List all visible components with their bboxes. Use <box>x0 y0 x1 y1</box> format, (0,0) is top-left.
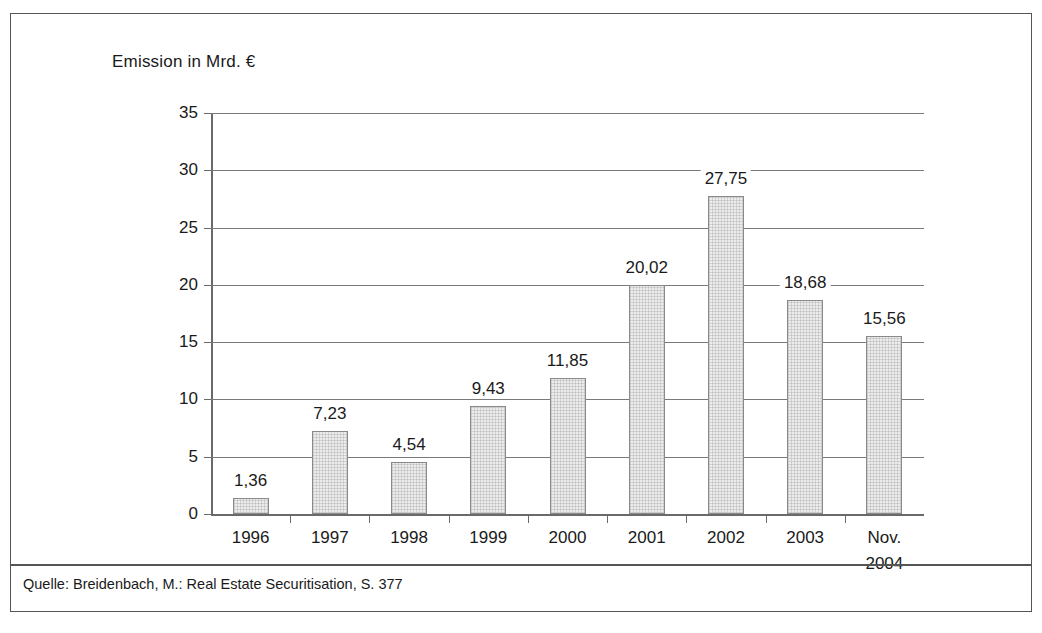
bar-2001[interactable] <box>629 285 665 514</box>
gridline-35: 35 <box>211 113 924 114</box>
bar-Nov.-2004[interactable] <box>866 336 902 514</box>
y-axis-label: 15 <box>179 332 198 352</box>
bar-1997[interactable] <box>312 431 348 514</box>
y-axis-label: 35 <box>179 103 198 123</box>
bar-1998[interactable] <box>391 462 427 514</box>
y-axis-label: 30 <box>179 160 198 180</box>
y-tick-10 <box>204 399 211 400</box>
bar-value-label: 9,43 <box>468 379 509 399</box>
y-axis-label: 25 <box>179 218 198 238</box>
y-axis-label: 20 <box>179 275 198 295</box>
bar-1996[interactable] <box>233 498 269 514</box>
x-axis-label: 2003 <box>786 525 824 551</box>
x-axis-label: 2001 <box>628 525 666 551</box>
y-tick-15 <box>204 342 211 343</box>
bar-value-label: 1,36 <box>230 471 271 491</box>
y-tick-25 <box>204 228 211 229</box>
y-axis-label: 5 <box>189 447 198 467</box>
y-axis-label: 10 <box>179 389 198 409</box>
bar-value-label: 18,68 <box>780 273 831 293</box>
x-axis-label: 2002 <box>707 525 745 551</box>
y-tick-20 <box>204 285 211 286</box>
bar-2002[interactable] <box>708 196 744 514</box>
x-axis-label: 2000 <box>549 525 587 551</box>
x-axis-label: 1998 <box>390 525 428 551</box>
y-axis-label: 0 <box>189 504 198 524</box>
x-tick <box>845 514 846 523</box>
bar-value-label: 27,75 <box>701 169 752 189</box>
gridline-0: 0 <box>211 514 924 516</box>
x-tick <box>607 514 608 523</box>
x-axis-label: 1997 <box>311 525 349 551</box>
source-divider <box>11 564 1031 566</box>
x-axis-label: 1999 <box>469 525 507 551</box>
figure-frame: Emission in Mrd. € 051015202530351,36199… <box>10 13 1032 612</box>
bar-value-label: 15,56 <box>859 309 910 329</box>
bar-2003[interactable] <box>787 300 823 514</box>
plot-area: 051015202530351,3619967,2319974,5419989,… <box>211 113 924 514</box>
x-tick <box>449 514 450 523</box>
bar-value-label: 7,23 <box>309 404 350 424</box>
x-tick <box>290 514 291 523</box>
x-tick <box>369 514 370 523</box>
source-note: Quelle: Breidenbach, M.: Real Estate Sec… <box>23 576 403 592</box>
x-axis-label: Nov. 2004 <box>865 525 903 577</box>
bar-1999[interactable] <box>470 406 506 514</box>
x-tick <box>686 514 687 523</box>
gridline-30: 30 <box>211 170 924 171</box>
y-tick-0 <box>204 514 211 515</box>
y-tick-5 <box>204 457 211 458</box>
y-tick-35 <box>204 113 211 114</box>
bar-value-label: 11,85 <box>543 351 592 371</box>
x-tick <box>528 514 529 523</box>
bar-value-label: 4,54 <box>389 435 430 455</box>
bar-2000[interactable] <box>550 378 586 514</box>
x-tick <box>766 514 767 523</box>
x-axis-label: 1996 <box>232 525 270 551</box>
chart-axis-title: Emission in Mrd. € <box>112 52 255 72</box>
bar-value-label: 20,02 <box>621 258 672 278</box>
y-tick-30 <box>204 170 211 171</box>
gridline-25: 25 <box>211 228 924 229</box>
